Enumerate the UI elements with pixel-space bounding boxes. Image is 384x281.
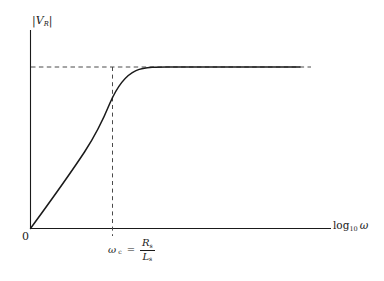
cutoff-numerator-symbol: R: [142, 237, 150, 248]
cutoff-numerator-subscript: s: [150, 242, 153, 249]
cutoff-frequency-annotation: ωc = Rs Ls: [108, 238, 155, 262]
cutoff-omega-symbol: ω: [108, 245, 116, 255]
y-axis-label-subscript: R: [44, 20, 49, 28]
cutoff-denominator-subscript: s: [149, 255, 152, 262]
x-axis-label: log10ω: [333, 220, 368, 231]
cutoff-equals-sign: =: [127, 245, 135, 255]
y-axis-label-bar: |: [49, 14, 53, 27]
x-axis-label-base: 10: [349, 225, 357, 233]
x-axis-label-log: log: [333, 219, 349, 231]
cutoff-fraction: Rs Ls: [140, 238, 155, 262]
y-axis-label-text: |V: [32, 14, 44, 27]
cutoff-fraction-numerator: Rs: [140, 238, 155, 249]
filter-response-plot: [0, 0, 384, 281]
y-axis-label: |VR|: [32, 15, 53, 26]
cutoff-fraction-denominator: Ls: [140, 252, 154, 263]
origin-label: 0: [22, 231, 29, 242]
cutoff-omega-subscript: c: [118, 249, 121, 255]
x-axis-label-omega: ω: [360, 219, 369, 231]
response-curve: [31, 67, 301, 229]
